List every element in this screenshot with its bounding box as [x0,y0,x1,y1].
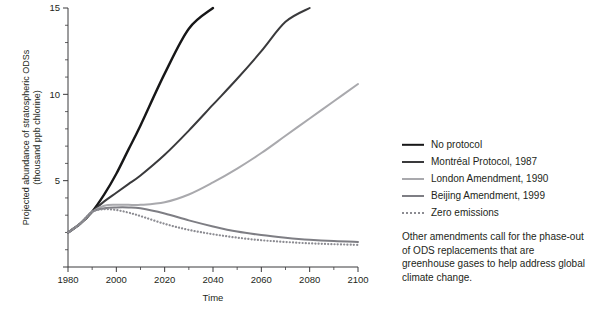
svg-text:2060: 2060 [251,274,272,285]
series-layer [68,8,358,245]
svg-text:Projected abundance of stratos: Projected abundance of stratospheric ODS… [21,49,31,225]
legend-item[interactable]: Montréal Protocol, 1987 [402,153,588,170]
series-line [68,8,213,232]
legend-label: Zero emissions [431,207,499,219]
svg-text:1980: 1980 [57,274,78,285]
svg-text:2100: 2100 [347,274,368,285]
legend-note: Other amendments call for the phase-out … [402,230,588,284]
svg-text:10: 10 [49,89,60,100]
legend-swatch-beijing-amendment [402,190,424,201]
legend-label: Beijing Amendment, 1999 [431,190,545,202]
svg-text:2040: 2040 [202,274,223,285]
legend-item[interactable]: London Amendment, 1990 [402,170,588,187]
svg-text:5: 5 [55,175,60,186]
x-axis-title: Time [203,292,224,303]
series-line [68,8,310,232]
svg-text:15: 15 [49,2,60,13]
legend-swatch-london-amendment [402,173,424,184]
legend-swatch-zero-emissions [402,207,424,218]
legend-label: No protocol [431,139,482,151]
svg-text:2000: 2000 [106,274,127,285]
legend-label: Montréal Protocol, 1987 [431,156,537,168]
svg-text:2020: 2020 [154,274,175,285]
figure-container: 510151980200020202040206020802100 Projec… [0,0,591,314]
legend-item[interactable]: No protocol [402,136,588,153]
svg-text:2080: 2080 [299,274,320,285]
legend-swatch-montreal-protocol [402,156,424,167]
series-line [68,207,358,242]
axis-layer: 510151980200020202040206020802100 [49,2,368,285]
chart-legend: No protocol Montréal Protocol, 1987 Lond… [402,136,588,284]
legend-label: London Amendment, 1990 [431,173,548,185]
svg-text:(thousand ppb chlorine): (thousand ppb chlorine) [32,90,42,185]
legend-item[interactable]: Beijing Amendment, 1999 [402,187,588,204]
legend-item[interactable]: Zero emissions [402,204,588,221]
y-axis-title: Projected abundance of stratospheric ODS… [21,49,42,225]
legend-swatch-no-protocol [402,139,424,150]
svg-text:Time: Time [203,292,224,303]
